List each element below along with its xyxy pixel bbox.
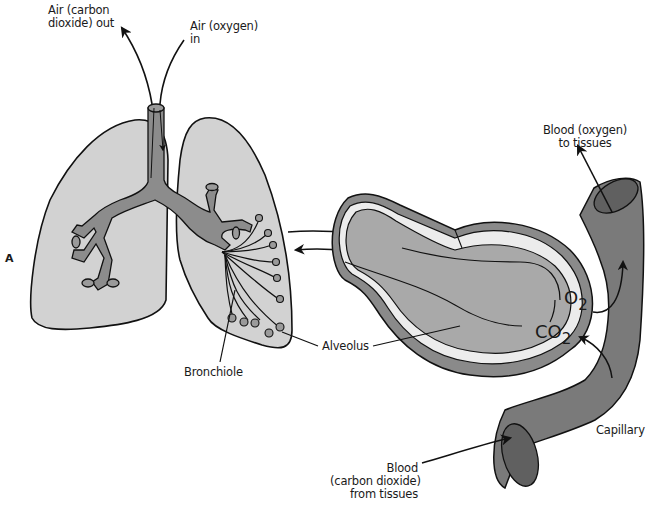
air-in-arrow bbox=[160, 40, 184, 104]
respiratory-diagram: O2 CO2 Air (carbon dioxide) out Air (oxy… bbox=[0, 0, 654, 506]
blood-to-tissues-label: Blood (oxygen) to tissues bbox=[530, 124, 640, 150]
diagram-canvas: O2 CO2 bbox=[0, 0, 654, 506]
bronchiole-label: Bronchiole bbox=[184, 366, 243, 379]
air-out-label: Air (carbon dioxide) out bbox=[48, 4, 114, 30]
air-in-label: Air (oxygen) in bbox=[190, 20, 258, 46]
air-out-arrow bbox=[122, 28, 152, 104]
alveolus bbox=[332, 194, 592, 377]
blood-from-tissues-label: Blood (carbon dioxide) from tissues bbox=[330, 462, 418, 501]
alveolus-label: Alveolus bbox=[322, 340, 369, 353]
panel-label: A bbox=[5, 252, 13, 265]
capillary-label: Capillary bbox=[596, 424, 645, 437]
